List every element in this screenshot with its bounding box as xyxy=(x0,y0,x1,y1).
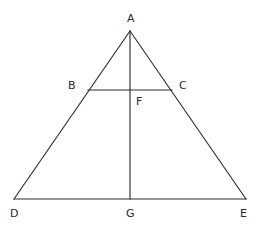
vertex-label-d: D xyxy=(10,208,18,219)
figure-canvas xyxy=(0,0,260,232)
vertex-label-f: F xyxy=(136,96,142,107)
segment-group xyxy=(14,31,246,199)
vertex-label-g: G xyxy=(126,208,135,219)
segment-ad xyxy=(14,31,130,199)
geometry-figure: ABCDEFG xyxy=(0,0,260,232)
vertex-label-a: A xyxy=(127,13,135,24)
vertex-label-e: E xyxy=(240,208,247,219)
vertex-label-c: C xyxy=(179,80,187,91)
vertex-label-b: B xyxy=(68,80,76,91)
segment-ae xyxy=(130,31,246,199)
